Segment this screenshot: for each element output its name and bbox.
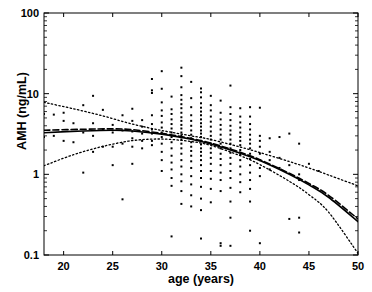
data-point — [249, 123, 251, 125]
x-tick-label-45: 45 — [303, 260, 315, 272]
data-point — [220, 190, 222, 192]
data-point — [220, 143, 222, 145]
data-point — [239, 166, 241, 168]
data-point — [220, 164, 222, 166]
data-point — [161, 136, 163, 138]
data-point — [249, 172, 251, 174]
data-point — [161, 115, 163, 117]
data-point — [200, 238, 202, 240]
data-point — [249, 201, 251, 203]
data-point — [180, 190, 182, 192]
data-point — [249, 128, 251, 130]
data-point — [190, 175, 192, 177]
data-point — [180, 173, 182, 175]
data-point — [82, 104, 84, 106]
figure-container: 202530354045500.1110100 AMH (ng/mL) age … — [0, 0, 372, 292]
data-point — [210, 109, 212, 111]
data-point — [43, 113, 45, 115]
data-point — [259, 107, 261, 109]
data-point — [180, 132, 182, 134]
data-point — [200, 186, 202, 188]
data-point — [239, 181, 241, 183]
data-point — [220, 128, 222, 130]
data-point — [210, 170, 212, 172]
data-point — [200, 198, 202, 200]
data-point — [249, 116, 251, 118]
data-point — [200, 159, 202, 161]
data-point — [210, 201, 212, 203]
data-point — [171, 185, 173, 187]
data-point — [229, 113, 231, 115]
data-point — [171, 141, 173, 143]
data-point — [200, 147, 202, 149]
data-point — [190, 114, 192, 116]
data-point — [161, 159, 163, 161]
data-point — [180, 116, 182, 118]
data-point — [210, 135, 212, 137]
data-point — [229, 187, 231, 189]
data-point — [171, 128, 173, 130]
data-point — [131, 137, 133, 139]
data-point — [180, 107, 182, 109]
data-point — [131, 120, 133, 122]
data-point — [259, 242, 261, 244]
data-point — [229, 170, 231, 172]
data-point — [229, 119, 231, 121]
data-point — [210, 121, 212, 123]
data-point — [151, 123, 153, 125]
data-point — [298, 173, 300, 175]
data-point — [112, 124, 114, 126]
data-point — [229, 245, 231, 247]
data-point — [239, 173, 241, 175]
data-point — [161, 151, 163, 153]
data-point — [220, 245, 222, 247]
x-axis-title: age (years) — [44, 272, 358, 286]
data-point — [200, 151, 202, 153]
data-point — [190, 125, 192, 127]
data-point — [161, 170, 163, 172]
data-point — [229, 177, 231, 179]
data-point — [53, 135, 55, 137]
data-point — [92, 135, 94, 137]
x-tick-label-30: 30 — [156, 260, 168, 272]
data-point — [151, 140, 153, 142]
data-point — [180, 153, 182, 155]
data-point — [180, 159, 182, 161]
data-point — [200, 155, 202, 157]
data-point — [180, 67, 182, 69]
data-point — [220, 112, 222, 114]
data-point — [112, 132, 114, 134]
data-point — [151, 78, 153, 80]
data-point — [210, 152, 212, 154]
data-point — [72, 122, 74, 124]
data-point — [171, 118, 173, 120]
data-point — [288, 133, 290, 135]
data-point — [171, 123, 173, 125]
data-point — [122, 198, 124, 200]
data-point — [220, 139, 222, 141]
data-point — [171, 162, 173, 164]
data-point — [200, 170, 202, 172]
data-point — [210, 163, 212, 165]
data-point — [249, 164, 251, 166]
data-point — [229, 139, 231, 141]
data-point — [239, 116, 241, 118]
data-point — [141, 119, 143, 121]
data-point — [171, 108, 173, 110]
data-point — [200, 129, 202, 131]
data-point — [220, 124, 222, 126]
data-point — [249, 179, 251, 181]
data-point — [171, 177, 173, 179]
data-point — [200, 91, 202, 93]
data-point — [131, 108, 133, 110]
data-point — [229, 85, 231, 87]
data-point — [229, 125, 231, 127]
data-point — [279, 136, 281, 138]
data-point — [239, 140, 241, 142]
data-point — [200, 126, 202, 128]
data-point — [229, 201, 231, 203]
data-point — [151, 89, 153, 91]
data-point — [229, 217, 231, 219]
data-point — [171, 147, 173, 149]
data-point — [200, 164, 202, 166]
